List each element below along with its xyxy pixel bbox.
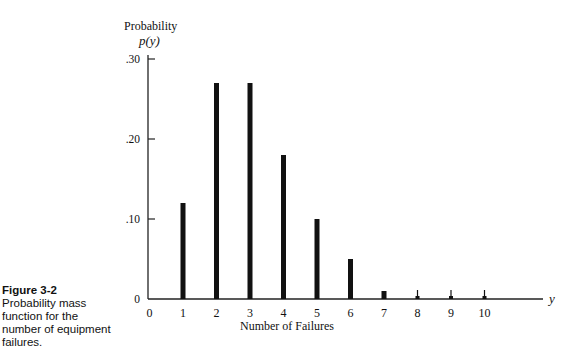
x-tick-label: 8	[415, 306, 421, 320]
x-tick-label: 6	[348, 306, 354, 320]
bar-4	[281, 155, 286, 299]
bar-6	[348, 259, 353, 299]
x-tick-label: 0	[147, 306, 153, 320]
x-tick-label: 9	[448, 306, 454, 320]
figure-caption: Figure 3-2 Probability mass function for…	[2, 284, 112, 348]
y-tick-label: 0	[134, 293, 140, 305]
axes	[148, 55, 543, 299]
figure-caption-label: Figure 3-2	[2, 284, 57, 296]
bar-1	[181, 203, 186, 299]
x-tick-label: 4	[281, 306, 287, 320]
y-tick-label: .30	[126, 53, 141, 65]
y-tick-label: .10	[126, 213, 141, 225]
x-axis-title: Number of Failures	[240, 319, 334, 334]
bar-8-base	[416, 296, 420, 299]
x-axis-symbol: y	[547, 291, 555, 306]
bar-2	[214, 83, 219, 299]
bar-3	[248, 83, 253, 299]
figure-caption-text: Probability mass function for the number…	[2, 297, 111, 348]
tick-labels: y0.10.20.30012345678910	[126, 53, 555, 320]
x-tick-label: 5	[314, 306, 320, 320]
bar-10-base	[483, 296, 487, 299]
bar-7	[382, 291, 387, 299]
bar-5	[315, 219, 320, 299]
x-tick-label: 10	[479, 306, 491, 320]
x-tick-label: 1	[180, 306, 186, 320]
bar-9-base	[449, 296, 453, 299]
x-tick-label: 2	[214, 306, 220, 320]
bars	[181, 83, 487, 299]
x-tick-label: 7	[381, 306, 387, 320]
x-tick-label: 3	[247, 306, 253, 320]
y-tick-label: .20	[126, 133, 141, 145]
